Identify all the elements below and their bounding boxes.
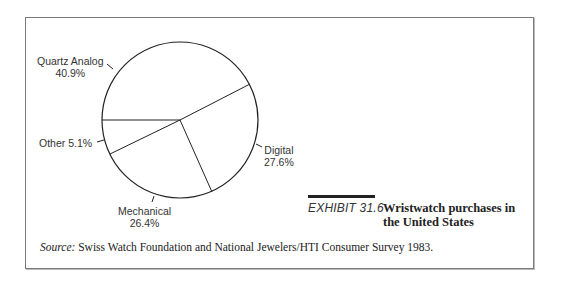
source-note: Source: Swiss Watch Foundation and Natio… [40,241,433,253]
label-mechanical: Mechanical 26.4% [118,205,171,229]
label-other: Other 5.1% [39,137,92,149]
leader-mechanical [152,196,154,202]
exhibit-title: Wristwatch purchases in the United State… [383,201,528,229]
exhibit-number: EXHIBIT 31.6 [308,201,384,215]
source-label: Source: [40,241,75,253]
leader-other [97,140,104,142]
source-text: Swiss Watch Foundation and National Jewe… [75,241,433,253]
label-quartz-analog: Quartz Analog 40.9% [37,55,104,79]
leader-quartz [107,64,113,69]
label-digital: Digital 27.6% [264,144,294,168]
label-digital-name: Digital [264,144,294,156]
label-quartz-pct: 40.9% [37,67,104,79]
label-digital-pct: 27.6% [264,156,294,168]
label-mechanical-pct: 26.4% [118,217,171,229]
label-quartz-name: Quartz Analog [37,55,104,67]
leader-digital [256,144,262,147]
exhibit-rule [308,195,375,198]
label-mechanical-name: Mechanical [118,205,171,217]
